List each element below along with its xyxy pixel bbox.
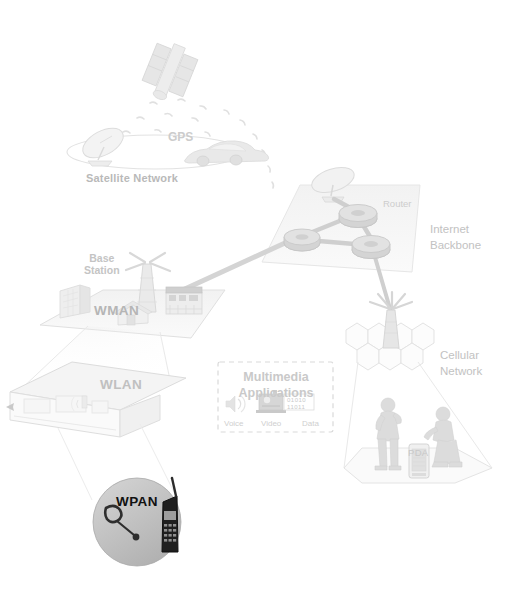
router-node-bottom: [352, 236, 390, 259]
cellular-network-group: [344, 292, 492, 483]
satellite-dish: [78, 122, 128, 166]
gps-signal-arc: [123, 99, 273, 188]
multimedia-applications-panel: [218, 362, 333, 432]
office-building: [60, 285, 90, 318]
router-node-left: [284, 229, 320, 251]
car: [185, 141, 269, 166]
gps-satellite: [138, 38, 200, 107]
wpan-group: [93, 478, 181, 566]
network-architecture-diagram: Satellite Network GPS Base Station WMAN …: [0, 0, 516, 602]
wman-group: [40, 253, 225, 338]
router-node-top: [339, 205, 377, 228]
storefront-building: [166, 287, 202, 314]
diagram-canvas: [0, 0, 516, 602]
binary-data-icon: [284, 394, 314, 410]
satellite-network-group: [67, 38, 273, 188]
pda-device: [409, 444, 429, 478]
